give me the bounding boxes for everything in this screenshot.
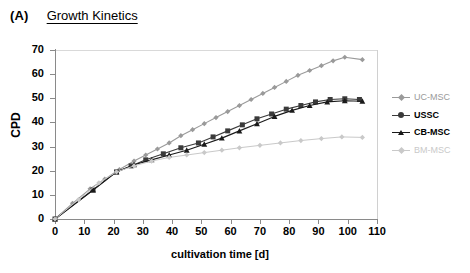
legend-item-label: CB-MSC <box>414 127 450 138</box>
data-point <box>184 152 189 157</box>
series-ussc <box>53 96 362 221</box>
chart-panel: (A) Growth Kinetics 010203040506070 0102… <box>0 0 470 273</box>
data-point <box>178 133 183 138</box>
legend-item-uc-msc[interactable]: UC-MSC <box>392 92 451 103</box>
series-line <box>55 137 362 219</box>
data-point <box>167 140 172 145</box>
data-point <box>298 138 303 143</box>
series-cb-msc <box>52 98 365 222</box>
data-point <box>237 145 242 150</box>
chart-legend: UC-MSCUSSCCB-MSCBM-MSC <box>392 92 451 156</box>
legend-item-bm-msc[interactable]: BM-MSC <box>392 145 451 156</box>
data-point <box>342 55 347 60</box>
data-point <box>143 152 148 157</box>
data-point <box>272 85 277 90</box>
data-point <box>196 140 201 145</box>
data-point <box>339 134 344 139</box>
legend-item-label: BM-MSC <box>414 145 451 156</box>
data-point <box>219 135 225 140</box>
data-point <box>360 57 365 62</box>
data-point <box>161 151 166 156</box>
legend-item-cb-msc[interactable]: CB-MSC <box>392 127 451 138</box>
data-point <box>155 146 160 151</box>
data-point <box>254 121 260 126</box>
legend-item-label: UC-MSC <box>414 92 450 103</box>
data-point <box>225 109 230 114</box>
series-line <box>55 101 362 219</box>
legend-item-ussc[interactable]: USSC <box>392 110 451 121</box>
data-point <box>307 68 312 73</box>
data-point <box>330 58 335 63</box>
data-point <box>202 150 207 155</box>
data-point <box>360 135 365 140</box>
data-point <box>284 79 289 84</box>
series-bm-msc <box>52 134 365 221</box>
data-point <box>202 121 207 126</box>
data-point <box>237 128 243 133</box>
data-point <box>257 143 262 148</box>
series-uc-msc <box>52 55 365 222</box>
legend-marker-icon <box>392 127 410 138</box>
legend-marker-icon <box>392 110 410 121</box>
data-point <box>249 97 254 102</box>
legend-item-label: USSC <box>414 110 439 121</box>
data-point <box>178 145 183 150</box>
series-line <box>55 57 362 219</box>
data-point <box>237 103 242 108</box>
data-point <box>260 91 265 96</box>
data-point <box>254 116 259 121</box>
data-point <box>240 122 245 127</box>
data-point <box>284 107 289 112</box>
data-point <box>295 73 300 78</box>
data-point <box>225 128 230 133</box>
legend-marker-icon <box>392 92 410 103</box>
data-point <box>213 115 218 120</box>
data-point <box>190 127 195 132</box>
data-point <box>278 140 283 145</box>
data-point <box>319 63 324 68</box>
legend-marker-icon <box>392 145 410 156</box>
series-line <box>55 99 359 219</box>
data-point <box>219 148 224 153</box>
data-point <box>319 136 324 141</box>
data-point <box>211 134 216 139</box>
